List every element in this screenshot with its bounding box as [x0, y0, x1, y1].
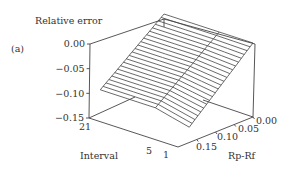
surface-mesh-line [158, 21, 247, 51]
y-tick-label: 0.00 [256, 115, 277, 126]
surface-mesh-line [161, 17, 250, 46]
z-axis-title: Relative error [35, 16, 102, 26]
floor-right-inner-edge [203, 100, 253, 117]
y-tick-label: 0.10 [217, 131, 238, 142]
y-tick [234, 125, 236, 127]
surface-mesh-line [144, 38, 233, 70]
surface-mesh-line [132, 52, 221, 85]
z-tick-label: −0.10 [55, 88, 84, 99]
y-tick [253, 117, 255, 119]
z-tick-label: −0.05 [56, 63, 85, 74]
surface-mesh-line [164, 14, 253, 43]
y-tick-label: 0.05 [238, 123, 259, 134]
y-tick-label: 0.15 [196, 141, 217, 152]
surface-chart: 0.00−0.05−0.10−0.1521510.000.050.100.15 [0, 0, 290, 174]
surface-mesh-line [126, 59, 215, 93]
x-tick-label: 21 [79, 121, 91, 132]
floor-back-edge [89, 97, 135, 118]
surface-mesh-line [129, 55, 218, 89]
x-axis-line [89, 118, 178, 147]
z-axis-line [89, 44, 90, 118]
y-axis-title: Rp-Rf [228, 151, 255, 161]
x-tick-label: 5 [146, 145, 152, 156]
box-right-vertical-edge [253, 44, 255, 117]
x-axis-title: Interval [80, 151, 118, 161]
panel-label: (a) [11, 44, 24, 54]
x-tick-label: 1 [163, 149, 169, 160]
z-tick-label: 0.00 [64, 38, 85, 49]
surface-mesh-line [141, 42, 230, 74]
